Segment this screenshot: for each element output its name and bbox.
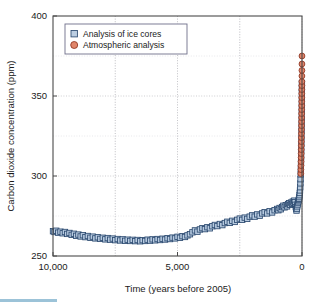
series-atmospheric bbox=[298, 53, 305, 176]
x-tick-label: 10,000 bbox=[38, 261, 67, 272]
co2-concentration-chart: 25030035040010,0005,0000 Time (years bef… bbox=[0, 0, 323, 305]
x-axis-title: Time (years before 2005) bbox=[125, 283, 231, 294]
chart-figure: 25030035040010,0005,0000 Time (years bef… bbox=[0, 0, 323, 305]
y-tick-label: 300 bbox=[31, 170, 47, 181]
chart-legend: Analysis of ice cores Atmospheric analys… bbox=[65, 24, 187, 54]
y-tick-label: 400 bbox=[31, 10, 47, 21]
y-tick-label: 250 bbox=[31, 250, 47, 261]
bottom-color-swatch bbox=[0, 299, 57, 302]
legend-marker-square bbox=[71, 31, 77, 37]
y-tick-label: 350 bbox=[31, 90, 47, 101]
legend-marker-circle bbox=[71, 42, 78, 49]
y-axis-title: Carbon dioxide concentration (ppm) bbox=[5, 60, 16, 211]
legend-entry-ice-cores: Analysis of ice cores bbox=[71, 29, 161, 39]
legend-label-ice-cores: Analysis of ice cores bbox=[83, 29, 161, 39]
legend-entry-atmospheric: Atmospheric analysis bbox=[71, 40, 165, 50]
x-tick-label: 5,000 bbox=[166, 261, 190, 272]
x-tick-label: 0 bbox=[299, 261, 304, 272]
legend-label-atmospheric: Atmospheric analysis bbox=[83, 40, 164, 50]
